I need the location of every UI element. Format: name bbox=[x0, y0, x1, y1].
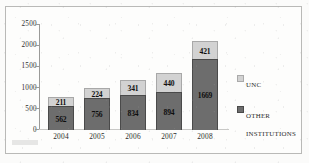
bar-value-other-2005: 756 bbox=[85, 110, 109, 119]
x-axis-labels: 2004 2005 2006 2007 2008 bbox=[39, 132, 227, 146]
bar-segment-other-2008[interactable]: 1669 bbox=[192, 59, 218, 130]
bar-segment-unc-2006[interactable]: 341 bbox=[120, 80, 146, 94]
y-axis-labels: 2500 2000 1500 1000 500 0 bbox=[6, 24, 37, 130]
bar-column-2005[interactable]: 224 756 bbox=[84, 88, 110, 130]
bar-column-2004[interactable]: 211 562 bbox=[48, 97, 74, 130]
chart-screenshot: 2500 2000 1500 1000 500 0 211 562 224 75… bbox=[0, 0, 309, 163]
bar-value-other-2007: 894 bbox=[157, 107, 181, 116]
bar-segment-other-2006[interactable]: 834 bbox=[120, 95, 146, 130]
x-tick-label-2005: 2005 bbox=[79, 132, 115, 141]
bar-segment-other-2007[interactable]: 894 bbox=[156, 92, 182, 130]
bar-segment-unc-2005[interactable]: 224 bbox=[84, 88, 110, 97]
bar-column-2007[interactable]: 440 894 bbox=[156, 73, 182, 130]
legend-item-other-institutions[interactable]: OTHER INSTITUTIONS bbox=[237, 104, 305, 140]
bar-value-other-2004: 562 bbox=[49, 114, 73, 123]
bar-series-group: 211 562 224 756 341 834 440 894 421 1669 bbox=[39, 24, 227, 130]
bar-value-other-2008: 1669 bbox=[193, 91, 217, 100]
legend-swatch-other-icon bbox=[237, 106, 244, 113]
bar-segment-unc-2007[interactable]: 440 bbox=[156, 73, 182, 92]
legend-label-unc: UNC bbox=[246, 81, 261, 88]
bar-value-unc-2006: 341 bbox=[121, 83, 145, 92]
y-tick-label-0: 0 bbox=[33, 126, 37, 134]
x-tick-label-2008: 2008 bbox=[187, 132, 223, 141]
legend-swatch-unc-icon bbox=[237, 75, 244, 82]
scan-artifact bbox=[12, 140, 38, 145]
legend-item-unc[interactable]: UNC bbox=[237, 73, 305, 91]
legend-label-other-institutions: OTHER INSTITUTIONS bbox=[246, 112, 296, 137]
bar-segment-other-2005[interactable]: 756 bbox=[84, 98, 110, 130]
bar-value-other-2006: 834 bbox=[121, 108, 145, 117]
bar-value-unc-2008: 421 bbox=[193, 46, 217, 55]
bar-segment-unc-2008[interactable]: 421 bbox=[192, 41, 218, 59]
bar-segment-other-2004[interactable]: 562 bbox=[48, 106, 74, 130]
chart-legend: UNC OTHER INSTITUTIONS bbox=[237, 73, 305, 153]
bar-column-2008[interactable]: 421 1669 bbox=[192, 41, 218, 130]
x-tick-label-2004: 2004 bbox=[43, 132, 79, 141]
chart-frame: 2500 2000 1500 1000 500 0 211 562 224 75… bbox=[5, 6, 302, 154]
x-tick-label-2007: 2007 bbox=[151, 132, 187, 141]
bar-column-2006[interactable]: 341 834 bbox=[120, 80, 146, 130]
bar-segment-unc-2004[interactable]: 211 bbox=[48, 97, 74, 106]
bar-value-unc-2005: 224 bbox=[85, 89, 109, 98]
x-tick-label-2006: 2006 bbox=[115, 132, 151, 141]
bar-value-unc-2007: 440 bbox=[157, 79, 181, 88]
